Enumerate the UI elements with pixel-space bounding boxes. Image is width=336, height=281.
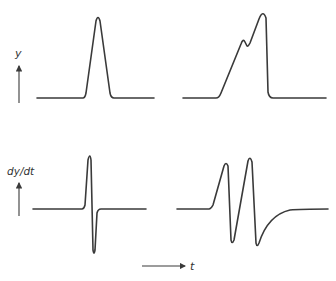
curve-bottom-right-derivative — [177, 158, 328, 245]
dydt-axis-indicator: dy/dt — [7, 165, 35, 216]
t-axis-label: t — [190, 260, 195, 273]
curve-top-left-peak — [37, 18, 154, 99]
curve-top-right-shouldered-peak — [183, 14, 326, 98]
y-axis-label: y — [14, 47, 22, 60]
t-axis-indicator: t — [142, 260, 195, 273]
dydt-axis-label: dy/dt — [7, 165, 35, 177]
y-axis-indicator: y — [14, 47, 22, 103]
derivative-diagram: y dy/dt t — [0, 0, 336, 281]
curve-bottom-left-derivative — [33, 156, 146, 253]
